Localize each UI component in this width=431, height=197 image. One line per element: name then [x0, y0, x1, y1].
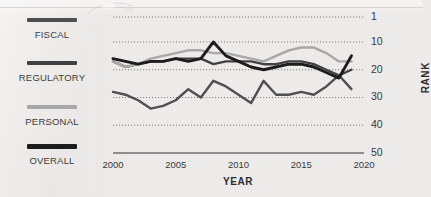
- series-lines: [113, 42, 351, 109]
- y-tick-1: 1: [371, 10, 377, 22]
- y-tick-30: 30: [371, 90, 383, 102]
- y-axis-title: RANK: [420, 62, 431, 93]
- x-tick-2015: 2015: [281, 159, 321, 170]
- y-tick-10: 10: [371, 35, 383, 47]
- x-tick-2020: 2020: [344, 159, 384, 170]
- y-tick-50: 50: [371, 146, 383, 158]
- y-tick-40: 40: [371, 118, 383, 130]
- x-axis-title: YEAR: [113, 176, 363, 187]
- y-tick-20: 20: [371, 63, 383, 75]
- x-tick-2005: 2005: [156, 159, 196, 170]
- x-tick-2010: 2010: [219, 159, 259, 170]
- series-line-fiscal: [113, 75, 351, 108]
- x-tick-2000: 2000: [93, 159, 133, 170]
